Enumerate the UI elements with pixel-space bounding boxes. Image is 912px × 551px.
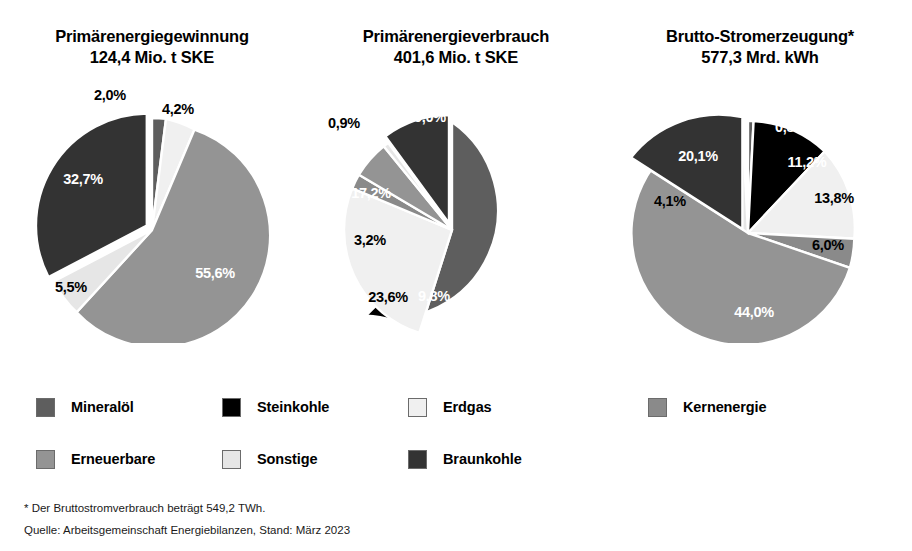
legend-swatch-sonstige xyxy=(222,450,241,469)
chart-1-title: Primärenergiegewinnung 124,4 Mio. t SKE xyxy=(0,26,304,68)
chart-2-label-kernenergie: 3,2% xyxy=(354,232,386,248)
legend-item-kernenergie: Kernenergie xyxy=(648,394,767,420)
chart-3-pie: 0,8% 11,2% 13,8% 6,0% 44,0% 4,1% 20,1% xyxy=(608,88,912,343)
chart-2-label-mineraloel: 35,3% xyxy=(497,193,537,209)
chart-3-title-line1: Brutto-Stromerzeugung* xyxy=(666,27,854,45)
legend-label-steinkohle: Steinkohle xyxy=(257,399,329,415)
legend-swatch-mineraloel xyxy=(36,398,55,417)
legend-swatch-erdgas xyxy=(408,398,427,417)
chart-2-title: Primärenergieverbrauch 401,6 Mio. t SKE xyxy=(304,26,608,68)
chart-1-label-sonstige: 5,5% xyxy=(55,279,87,295)
chart-1-title-line1: Primärenergiegewinnung xyxy=(55,27,249,45)
chart-1-title-line2: 124,4 Mio. t SKE xyxy=(0,47,304,68)
chart-2-label-sonstige: 0,9% xyxy=(328,115,360,131)
chart-1-label-erdgas: 4,2% xyxy=(162,101,194,117)
legend-swatch-braunkohle xyxy=(408,450,427,469)
chart-3-pie-svg: 0,8% 11,2% 13,8% 6,0% 44,0% 4,1% 20,1% xyxy=(608,88,912,343)
chart-1-label-mineraloel: 2,0% xyxy=(94,88,126,103)
legend-label-kernenergie: Kernenergie xyxy=(683,399,767,415)
chart-2-pie-svg: 35,3% 9,8% 23,6% 3,2% 17,2% 0,9% 10,0% xyxy=(304,88,608,343)
chart-primaerenergieverbrauch: Primärenergieverbrauch 401,6 Mio. t SKE xyxy=(304,0,608,375)
chart-3-title-line2: 577,3 Mrd. kWh xyxy=(608,47,912,68)
legend-label-mineraloel: Mineralöl xyxy=(71,399,134,415)
legend-item-braunkohle: Braunkohle xyxy=(408,446,522,472)
legend-item-sonstige: Sonstige xyxy=(222,446,317,472)
chart-2-pie: 35,3% 9,8% 23,6% 3,2% 17,2% 0,9% 10,0% xyxy=(304,88,608,343)
legend: Mineralöl Steinkohle Erdgas Kernenergie … xyxy=(0,380,912,485)
chart-2-title-line2: 401,6 Mio. t SKE xyxy=(304,47,608,68)
chart-1-pie-svg: 2,0% 4,2% 55,6% 5,5% 32,7% xyxy=(0,88,304,343)
legend-swatch-erneuerbare xyxy=(36,450,55,469)
chart-3-label-erdgas: 13,8% xyxy=(814,190,854,206)
chart-2-label-erneuerbare: 17,2% xyxy=(351,185,391,201)
chart-3-label-steinkohle: 11,2% xyxy=(788,154,827,170)
legend-label-sonstige: Sonstige xyxy=(257,451,317,467)
chart-primaerenergiegewinnung: Primärenergiegewinnung 124,4 Mio. t SKE … xyxy=(0,0,304,375)
legend-item-steinkohle: Steinkohle xyxy=(222,394,329,420)
chart-2-title-line1: Primärenergieverbrauch xyxy=(363,27,549,45)
charts-row: Primärenergiegewinnung 124,4 Mio. t SKE … xyxy=(0,0,912,375)
legend-swatch-steinkohle xyxy=(222,398,241,417)
legend-item-erneuerbare: Erneuerbare xyxy=(36,446,155,472)
legend-label-erdgas: Erdgas xyxy=(443,399,492,415)
legend-item-erdgas: Erdgas xyxy=(408,394,492,420)
footnotes: * Der Bruttostromverbrauch beträgt 549,2… xyxy=(24,497,884,541)
chart-1-label-braunkohle: 32,7% xyxy=(63,171,103,187)
legend-label-braunkohle: Braunkohle xyxy=(443,451,522,467)
chart-3-label-kernenergie: 6,0% xyxy=(812,237,844,253)
chart-1-label-erneuerbare: 55,6% xyxy=(195,265,235,281)
chart-3-title: Brutto-Stromerzeugung* 577,3 Mrd. kWh xyxy=(608,26,912,68)
chart-1-pie: 2,0% 4,2% 55,6% 5,5% 32,7% xyxy=(0,88,304,343)
chart-3-label-erneuerbare: 44,0% xyxy=(734,304,774,320)
legend-swatch-kernenergie xyxy=(648,398,667,417)
chart-2-label-braunkohle: 10,0% xyxy=(406,109,446,125)
chart-2-label-erdgas: 23,6% xyxy=(368,289,408,305)
footnote-bruttostromverbrauch: * Der Bruttostromverbrauch beträgt 549,2… xyxy=(24,497,884,519)
chart-3-label-sonstige: 4,1% xyxy=(654,193,686,209)
footnote-source: Quelle: Arbeitsgemeinschaft Energiebilan… xyxy=(24,519,884,541)
chart-brutto-stromerzeugung: Brutto-Stromerzeugung* 577,3 Mrd. kWh xyxy=(608,0,912,375)
chart-3-label-braunkohle: 20,1% xyxy=(678,148,718,164)
legend-item-mineraloel: Mineralöl xyxy=(36,394,134,420)
chart-2-label-steinkohle: 9,8% xyxy=(418,288,450,304)
chart-3-label-mineraloel: 0,8% xyxy=(775,119,807,135)
legend-label-erneuerbare: Erneuerbare xyxy=(71,451,155,467)
